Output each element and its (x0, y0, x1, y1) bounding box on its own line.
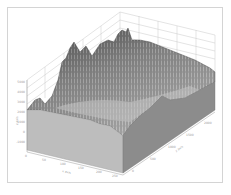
svg-text:200: 200 (96, 170, 102, 174)
svg-text:50: 50 (42, 158, 46, 162)
svg-text:5000: 5000 (17, 80, 25, 84)
svg-text:2000: 2000 (204, 121, 212, 125)
svg-text:250: 250 (112, 174, 118, 178)
svg-text:500: 500 (150, 157, 156, 161)
svg-text:1500: 1500 (186, 133, 194, 137)
x-axis-label: x axis (62, 169, 72, 175)
z-axis-ticks: 5000 4000 3000 2000 1000 0 -1000 (16, 80, 25, 144)
z-axis-label: z axis (15, 116, 19, 125)
svg-text:0: 0 (132, 169, 134, 173)
y-axis-label: y axis (174, 144, 184, 152)
svg-text:150: 150 (78, 166, 84, 170)
svg-text:3000: 3000 (17, 100, 25, 104)
svg-text:100: 100 (60, 162, 66, 166)
svg-text:-1000: -1000 (16, 140, 25, 144)
svg-text:0: 0 (23, 130, 25, 134)
svg-text:2000: 2000 (17, 110, 25, 114)
svg-text:0: 0 (25, 154, 27, 158)
svg-text:4000: 4000 (17, 90, 25, 94)
surface-plot: 5000 4000 3000 2000 1000 0 -1000 z axis … (0, 0, 231, 195)
